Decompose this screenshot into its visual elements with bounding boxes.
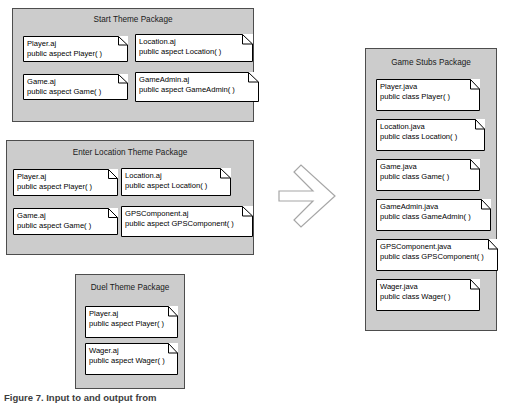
note-shape-icon [135, 34, 253, 62]
package-title: Duel Theme Package [76, 283, 184, 293]
note-shape-icon [23, 36, 128, 62]
note-shape-icon [376, 239, 498, 271]
note-shape-icon [85, 306, 178, 338]
figure-caption: Figure 7. Input to and output from [4, 392, 157, 404]
package-duel-theme[interactable]: Duel Theme Package Player.aj public aspe… [75, 274, 185, 389]
note-location-aj[interactable]: Location.aj public aspect Location( ) [121, 168, 231, 196]
note-player-aj[interactable]: Player.aj public aspect Player( ) [85, 306, 178, 338]
note-wager-java[interactable]: Wager.java public class Wager( ) [376, 279, 480, 311]
note-wager-aj[interactable]: Wager.aj public aspect Wager( ) [85, 343, 178, 375]
note-location-java[interactable]: Location.java public class Location( ) [376, 119, 485, 151]
note-player-aj[interactable]: Player.aj public aspect Player( ) [13, 169, 118, 196]
note-shape-icon [121, 168, 231, 196]
note-shape-icon [376, 199, 491, 231]
note-shape-icon [135, 72, 259, 102]
note-shape-icon [376, 79, 480, 111]
note-shape-icon [85, 343, 178, 375]
note-player-java[interactable]: Player.java public class Player( ) [376, 79, 480, 111]
package-start-theme[interactable]: Start Theme Package Player.aj public asp… [12, 8, 254, 122]
transformation-arrow [278, 160, 350, 232]
note-gpscomponent-aj[interactable]: GPSComponent.aj public aspect GPSCompone… [121, 206, 253, 237]
note-location-aj[interactable]: Location.aj public aspect Location( ) [135, 34, 253, 62]
note-game-aj[interactable]: Game.aj public aspect Game( ) [23, 74, 128, 100]
package-title: Enter Location Theme Package [7, 148, 253, 158]
note-shape-icon [13, 169, 118, 196]
note-shape-icon [13, 208, 118, 235]
note-shape-icon [376, 279, 480, 311]
note-shape-icon [23, 74, 128, 100]
note-shape-icon [376, 119, 485, 151]
package-game-stubs[interactable]: Game Stubs Package Player.java public cl… [365, 48, 497, 331]
package-title: Start Theme Package [13, 15, 253, 25]
note-shape-icon [376, 159, 480, 191]
note-game-aj[interactable]: Game.aj public aspect Game( ) [13, 208, 118, 235]
package-enter-location-theme[interactable]: Enter Location Theme Package Player.aj p… [6, 140, 254, 255]
arrow-right-icon [278, 160, 350, 232]
note-gameadmin-aj[interactable]: GameAdmin.aj public aspect GameAdmin( ) [135, 72, 259, 102]
note-gameadmin-java[interactable]: GameAdmin.java public class GameAdmin( ) [376, 199, 491, 231]
note-game-java[interactable]: Game.java public class Game( ) [376, 159, 480, 191]
note-player-aj[interactable]: Player.aj public aspect Player( ) [23, 36, 128, 62]
note-shape-icon [121, 206, 253, 237]
package-title: Game Stubs Package [366, 58, 496, 68]
note-gpscomponent-java[interactable]: GPSComponent.java public class GPSCompon… [376, 239, 498, 271]
